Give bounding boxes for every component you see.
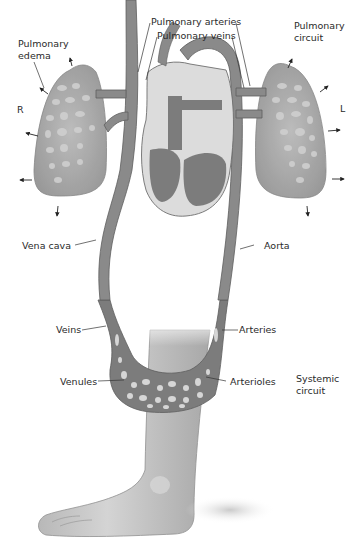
label-pulmonary-edema: Pulmonary edema [18,38,69,62]
arrow-icon [307,206,308,216]
label-venules: Venules [60,376,97,388]
label-pulmonary-circuit: Pulmonary circuit [294,20,345,44]
label-arteries: Arteries [239,324,276,336]
left-lung [256,64,327,198]
arrow-icon [26,133,38,136]
circulatory-diagram: Pulmonary edema Pulmonary arteries Pulmo… [0,0,362,551]
label-aorta: Aorta [264,240,290,252]
lower-leg [39,316,276,537]
arrow-icon [70,58,72,66]
label-arterioles: Arterioles [230,376,276,388]
label-systemic-circuit: Systemic circuit [296,373,339,397]
label-vena-cava: Vena cava [22,240,71,252]
label-pulmonary-veins: Pulmonary veins [157,30,236,42]
arrow-icon [328,130,340,131]
label-right-side: R [17,104,24,116]
arrow-icon [40,88,48,94]
label-pulmonary-arteries: Pulmonary arteries [151,16,241,28]
arrow-icon [320,86,328,92]
label-left-side: L [340,103,345,115]
right-lung [34,65,107,196]
label-veins: Veins [56,324,81,336]
diagram-artwork [0,0,362,551]
arrow-icon [57,206,58,216]
